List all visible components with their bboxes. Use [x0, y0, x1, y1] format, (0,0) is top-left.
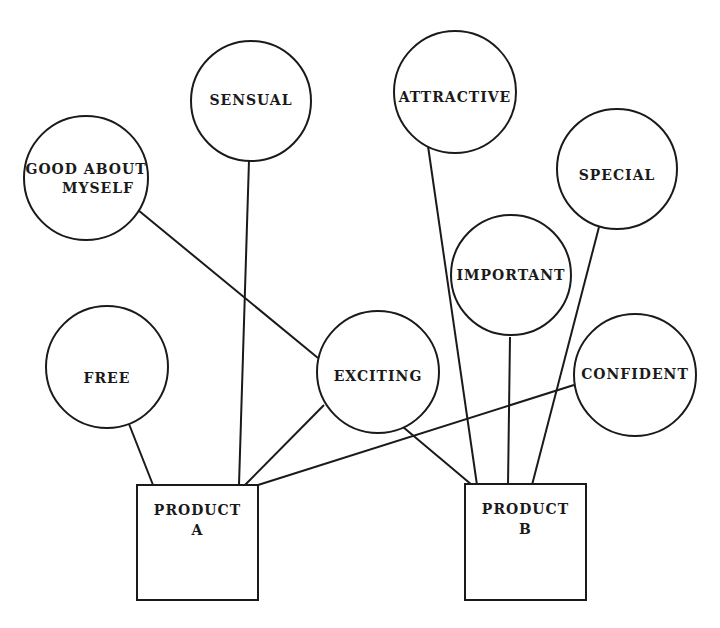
- attribute-node-sensual: SENSUAL: [191, 41, 311, 161]
- attribute-label: ATTRACTIVE: [398, 89, 512, 105]
- connection-exciting-to-product-a: [245, 405, 324, 485]
- concept-diagram: SENSUALGOOD ABOUTMYSELFATTRACTIVESPECIAL…: [0, 0, 720, 628]
- attribute-label: EXCITING: [334, 368, 423, 384]
- attribute-node-special: SPECIAL: [557, 109, 677, 229]
- product-label: A: [191, 522, 204, 538]
- attribute-node-confident: CONFIDENT: [574, 314, 696, 436]
- attribute-node-important: IMPORTANT: [451, 215, 571, 335]
- connection-important-to-product-b: [508, 337, 510, 485]
- attribute-node-free: FREE: [46, 306, 168, 428]
- circle-shape: [24, 116, 148, 240]
- attribute-label: MYSELF: [62, 180, 134, 196]
- product-label: B: [519, 521, 532, 537]
- product-box-product-a: PRODUCTA: [137, 485, 258, 600]
- attribute-label: SPECIAL: [579, 167, 656, 183]
- connection-free-to-product-a: [129, 424, 153, 485]
- attribute-label: CONFIDENT: [581, 366, 689, 382]
- connection-exciting-to-product-b: [403, 427, 472, 485]
- product-label: PRODUCT: [482, 501, 569, 517]
- attribute-node-attractive: ATTRACTIVE: [394, 31, 516, 153]
- attribute-label: SENSUAL: [209, 92, 292, 108]
- diagram-canvas: SENSUALGOOD ABOUTMYSELFATTRACTIVESPECIAL…: [0, 0, 720, 628]
- attribute-label: GOOD ABOUT: [25, 161, 146, 177]
- attribute-node-exciting: EXCITING: [317, 311, 439, 433]
- connection-good-about-myself-to-exciting: [138, 210, 318, 358]
- connection-sensual-to-product-a: [239, 160, 249, 485]
- product-boxes: PRODUCTAPRODUCTB: [137, 484, 586, 600]
- attribute-label: FREE: [84, 370, 131, 386]
- product-box-product-b: PRODUCTB: [465, 484, 586, 600]
- attribute-label: IMPORTANT: [457, 267, 566, 283]
- circle-shape: [46, 306, 168, 428]
- attribute-node-good-about-myself: GOOD ABOUTMYSELF: [24, 116, 148, 240]
- attribute-nodes: SENSUALGOOD ABOUTMYSELFATTRACTIVESPECIAL…: [24, 31, 696, 436]
- product-label: PRODUCT: [154, 502, 241, 518]
